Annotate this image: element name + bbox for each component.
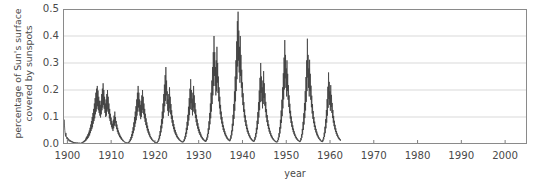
sunspot-area-chart: percentage of Sun's surface covered by s… (0, 0, 539, 187)
gridlines (63, 36, 527, 117)
x-axis-tick-labels: 1900191019201930194019501960197019801990… (0, 150, 539, 164)
y-axis-tick-label: 0.3 (35, 58, 59, 68)
x-axis-tick-label: 1990 (441, 150, 481, 161)
plot-area (63, 9, 527, 144)
x-axis-tick-label: 1960 (310, 150, 350, 161)
sunspot-area-line (63, 12, 341, 144)
x-axis-tick-label: 2000 (485, 150, 525, 161)
y-axis-tick-label: 0.5 (35, 4, 59, 14)
y-axis-tick-label: 0.4 (35, 31, 59, 41)
y-axis-tick-label: 0.2 (35, 85, 59, 95)
y-axis-tick-label: 0.1 (35, 112, 59, 122)
x-axis-tick-label: 1920 (135, 150, 175, 161)
y-axis-tick-label: 0.0 (35, 139, 59, 149)
x-axis-tick-label: 1980 (398, 150, 438, 161)
plot-frame (64, 10, 527, 144)
x-axis-tick-label: 1940 (223, 150, 263, 161)
x-axis-title: year (63, 168, 527, 179)
x-axis-tick-label: 1900 (47, 150, 87, 161)
x-axis-tick-label: 1950 (266, 150, 306, 161)
y-axis-title: percentage of Sun's surface covered by s… (0, 0, 36, 150)
x-axis-tick-label: 1970 (354, 150, 394, 161)
y-axis-title-line2: covered by sunspots (23, 0, 34, 149)
x-axis-tick-label: 1930 (179, 150, 219, 161)
plot-svg (63, 9, 527, 144)
y-axis-title-line1: percentage of Sun's surface (12, 0, 23, 149)
x-axis-tick-label: 1910 (91, 150, 131, 161)
